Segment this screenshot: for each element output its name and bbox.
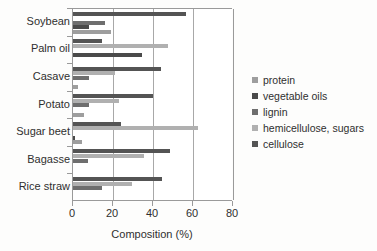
bar [73, 76, 89, 80]
y-axis-tick [67, 146, 72, 147]
bar [73, 94, 153, 98]
y-axis-tick [67, 118, 72, 119]
bar [73, 53, 142, 57]
gridline-80 [233, 9, 234, 200]
x-axis-tick [72, 201, 73, 206]
bar [73, 44, 168, 48]
y-axis-label: Palm oil [0, 43, 70, 54]
x-axis-tick-label: 80 [212, 207, 252, 219]
bar [73, 113, 84, 117]
bar-group [73, 67, 232, 89]
bar [73, 136, 75, 140]
bar [73, 25, 89, 29]
bar-group [73, 12, 232, 34]
bar-group [73, 122, 232, 144]
legend-item: protein [252, 72, 364, 88]
legend-swatch-icon [252, 93, 258, 99]
y-axis-label: Sugar beet [0, 126, 70, 137]
x-axis-tick [112, 201, 113, 206]
legend-swatch-icon [252, 109, 258, 115]
legend-swatch-icon [252, 77, 258, 83]
legend-item-label: protein [263, 74, 295, 86]
bar [73, 154, 144, 158]
bar [73, 182, 132, 186]
x-axis-tick [152, 201, 153, 206]
bar [73, 30, 111, 34]
y-axis-tick [67, 91, 72, 92]
bar [73, 186, 102, 190]
bar [73, 126, 198, 130]
legend-item: cellulose [252, 136, 364, 152]
bar [73, 39, 102, 43]
x-axis-tick-label: 20 [92, 207, 132, 219]
x-axis-tick [232, 201, 233, 206]
legend-item-label: vegetable oils [263, 90, 327, 102]
y-axis-label: Bagasse [0, 154, 70, 165]
legend-item: lignin [252, 104, 364, 120]
plot-area [72, 8, 232, 201]
bar [73, 67, 161, 71]
bar-group [73, 149, 232, 171]
bar-group [73, 39, 232, 61]
x-axis-tick-label: 60 [172, 207, 212, 219]
bar [73, 99, 119, 103]
y-axis-label: Rice straw [0, 181, 70, 192]
legend-item-label: lignin [263, 106, 288, 118]
bar [73, 140, 82, 144]
y-axis-label: Casave [0, 71, 70, 82]
bar [73, 12, 186, 16]
legend-item: vegetable oils [252, 88, 364, 104]
bar [73, 122, 121, 126]
bar [73, 21, 105, 25]
x-axis-tick-label: 40 [132, 207, 172, 219]
bar-group [73, 177, 232, 199]
legend-item-label: cellulose [263, 138, 304, 150]
bar [73, 103, 89, 107]
bar [73, 85, 78, 89]
x-axis-tick-label: 0 [52, 207, 92, 219]
bar-group [73, 94, 232, 116]
legend-item: hemicellulose, sugars [252, 120, 364, 136]
y-axis-tick [67, 8, 72, 9]
bar [73, 149, 170, 153]
legend-item-label: hemicellulose, sugars [263, 122, 364, 134]
x-axis-tick [192, 201, 193, 206]
y-axis-label: Potato [0, 99, 70, 110]
x-axis-title: Composition (%) [72, 228, 232, 240]
y-axis-tick [67, 63, 72, 64]
composition-bar-chart: SoybeanPalm oilCasavePotatoSugar beetBag… [0, 0, 377, 251]
legend-swatch-icon [252, 125, 258, 131]
y-axis-tick [67, 173, 72, 174]
y-axis-tick [67, 36, 72, 37]
bar [73, 71, 115, 75]
bar [73, 159, 88, 163]
legend-swatch-icon [252, 141, 258, 147]
chart-legend: proteinvegetable oilsligninhemicellulose… [252, 72, 364, 152]
y-axis-label: Soybean [0, 16, 70, 27]
bar [73, 177, 162, 181]
